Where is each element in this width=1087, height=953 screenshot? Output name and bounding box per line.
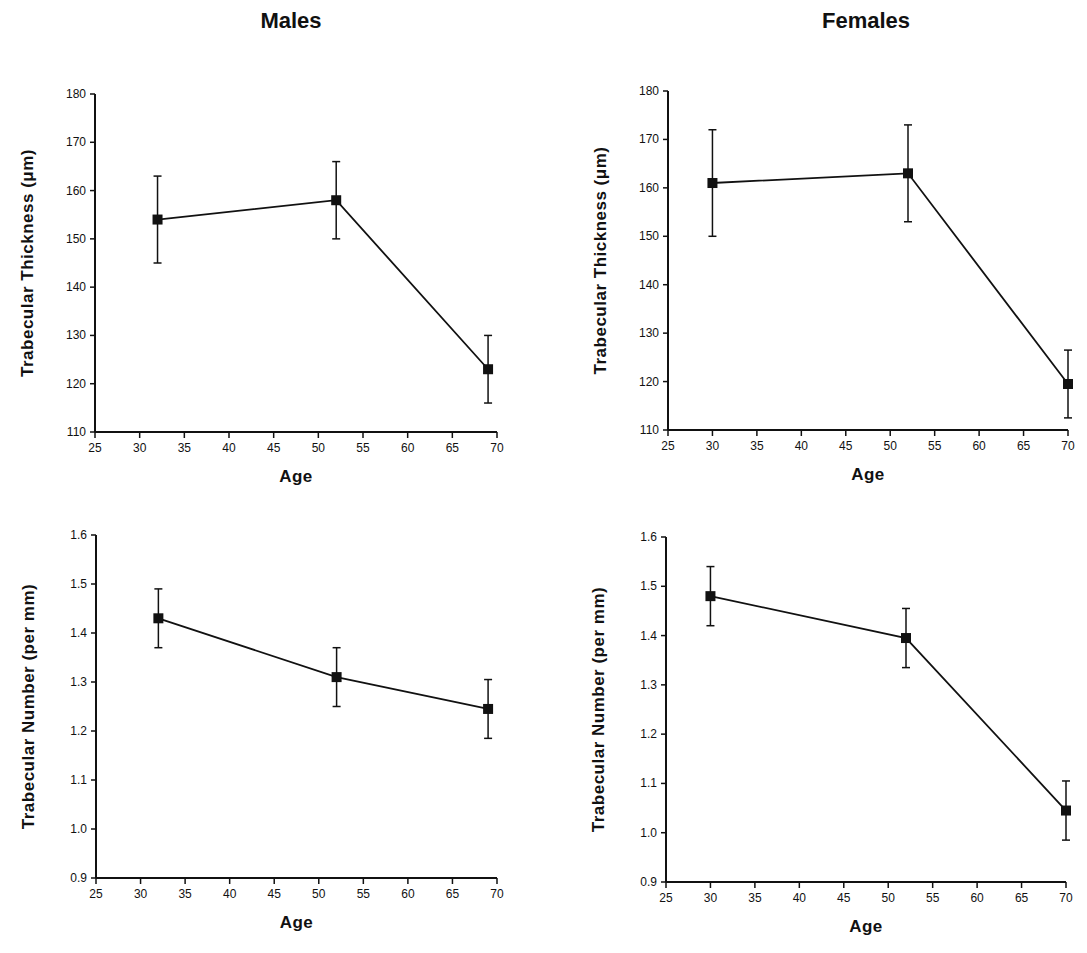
x-tick-label: 40 [793,891,807,905]
chart-females-number: 0.91.01.11.21.31.41.51.62530354045505560… [0,0,1087,953]
x-tick-label: 25 [659,891,673,905]
square-marker-icon [705,591,715,601]
axes: 0.91.01.11.21.31.41.51.62530354045505560… [640,530,1073,905]
data-point [901,608,911,667]
y-tick-label: 1.6 [640,530,657,544]
data-point [1061,781,1071,840]
data-point [705,567,715,626]
y-tick-label: 1.5 [640,579,657,593]
x-tick-label: 50 [882,891,896,905]
square-marker-icon [1061,806,1071,816]
x-tick-label: 55 [926,891,940,905]
x-tick-label: 65 [1015,891,1029,905]
x-tick-label: 35 [748,891,762,905]
x-tick-label: 70 [1059,891,1073,905]
x-tick-label: 45 [837,891,851,905]
y-tick-label: 1.1 [640,776,657,790]
y-axis-title: Trabecular Number (per mm) [589,587,608,832]
y-tick-label: 1.2 [640,727,657,741]
x-tick-label: 30 [704,891,718,905]
series-line [710,596,1066,810]
y-tick-label: 1.4 [640,629,657,643]
y-tick-label: 1.0 [640,826,657,840]
x-axis-title: Age [849,917,883,936]
y-tick-label: 0.9 [640,875,657,889]
y-tick-label: 1.3 [640,678,657,692]
square-marker-icon [901,633,911,643]
x-tick-label: 60 [970,891,984,905]
